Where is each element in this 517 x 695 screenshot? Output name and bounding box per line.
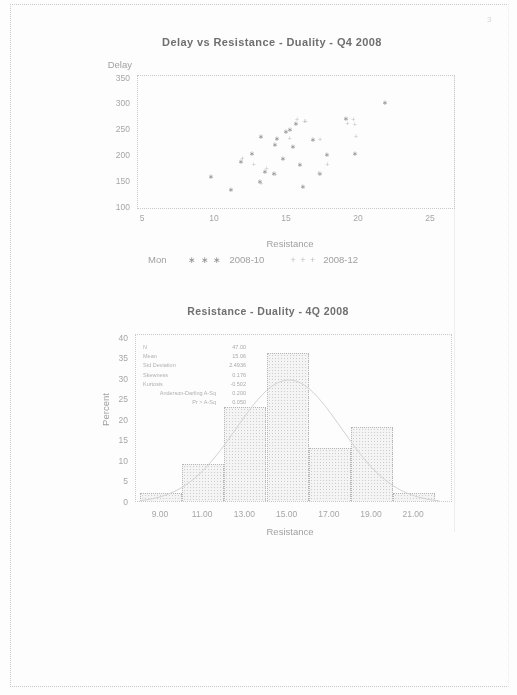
histogram-x-tick-label: 15.00: [270, 510, 304, 519]
document-page: 3 Delay vs Resistance - Duality - Q4 200…: [0, 0, 517, 695]
scatter-legend-title: Mon: [148, 254, 166, 265]
scatter-x-tick-label: 10: [197, 214, 231, 223]
scatter-x-tick-label: 5: [125, 214, 159, 223]
scatter-point: ∗: [272, 141, 278, 148]
scatter-x-tick-label: 20: [341, 214, 375, 223]
scatter-point: +: [304, 118, 308, 125]
scatter-x-tick-label: 25: [413, 214, 447, 223]
scatter-y-tick-label: 150: [100, 177, 130, 186]
stats-row: N47.00: [143, 342, 246, 351]
histogram-y-tick-label: 35: [98, 354, 128, 363]
histogram-title: Resistance - Duality - 4Q 2008: [58, 305, 478, 317]
stats-value: 47.00: [220, 344, 246, 350]
scatter-y-tick-label: 250: [100, 125, 130, 134]
scatter-point: +: [325, 161, 329, 168]
scatter-point: +: [273, 170, 277, 177]
scatter-point: ∗: [310, 135, 316, 142]
histogram-x-axis-title: Resistance: [240, 526, 340, 537]
histogram-x-tick-label: 13.00: [227, 510, 261, 519]
histogram-bar: [393, 493, 435, 501]
scatter-point: ∗: [300, 182, 306, 189]
scatter-point: ∗: [382, 98, 388, 105]
histogram-bar: [140, 493, 182, 501]
histogram-bar: [267, 353, 309, 501]
histogram-y-tick-label: 20: [98, 416, 128, 425]
histogram-x-tick-label: 17.00: [312, 510, 346, 519]
histogram-y-tick-label: 40: [98, 334, 128, 343]
scatter-point: +: [252, 161, 256, 168]
scatter-y-tick-label: 350: [100, 74, 130, 83]
legend-marker-icon: + + +: [290, 255, 316, 265]
scatter-point: ∗: [287, 126, 293, 133]
scatter-point: ∗: [352, 149, 358, 156]
scatter-point: ∗: [324, 150, 330, 157]
stats-row: Mean15.06: [143, 351, 246, 360]
scatter-y-axis-title: Delay: [92, 59, 132, 70]
scatter-plot-area: ∗∗∗∗∗∗∗∗∗∗∗∗∗∗∗∗∗∗∗∗∗∗∗++++++++++++++++: [137, 75, 455, 209]
stats-label: N: [143, 344, 220, 350]
scatter-chart-title: Delay vs Resistance - Duality - Q4 2008: [60, 36, 484, 48]
scatter-point: +: [259, 180, 263, 187]
histogram-x-tick-label: 21.00: [396, 510, 430, 519]
scatter-point: +: [295, 116, 299, 123]
page-number: 3: [487, 15, 491, 24]
legend-marker-icon: ∗ ∗ ∗: [188, 255, 222, 265]
histogram-y-tick-label: 30: [98, 375, 128, 384]
stats-row: Pr > A-Sq0.050: [143, 398, 246, 407]
stats-value: 0.050: [220, 399, 246, 405]
histogram-y-tick-label: 0: [98, 498, 128, 507]
scatter-point: ∗: [280, 154, 286, 161]
stats-row: Kurtosis-0.502: [143, 379, 246, 388]
histogram-stats-inset: N47.00Mean15.06Std Deviation2.4936Skewne…: [143, 342, 246, 407]
scatter-y-tick-label: 200: [100, 151, 130, 160]
scatter-point: +: [265, 164, 269, 171]
histogram-bar: [224, 407, 266, 501]
scatter-x-axis-title: Resistance: [240, 238, 340, 249]
scatter-y-tick-label: 300: [100, 99, 130, 108]
scatter-point: +: [240, 154, 244, 161]
scatter-x-tick-label: 15: [269, 214, 303, 223]
legend-item-label: 2008-10: [230, 254, 265, 265]
stats-value: 0.200: [220, 390, 246, 396]
histogram-x-tick-label: 19.00: [354, 510, 388, 519]
histogram-y-tick-label: 5: [98, 477, 128, 486]
stats-value: 0.176: [220, 372, 246, 378]
scatter-point: ∗: [274, 134, 280, 141]
scatter-legend-item: + + +2008-12: [290, 254, 358, 265]
scatter-legend: Mon ∗ ∗ ∗2008-10+ + +2008-12: [148, 254, 384, 265]
scatter-point: ∗: [228, 185, 234, 192]
scatter-point: +: [354, 132, 358, 139]
histogram-bar: [309, 448, 351, 501]
scatter-point: +: [288, 134, 292, 141]
stats-value: 2.4936: [220, 362, 246, 368]
stats-label: Mean: [143, 353, 220, 359]
scatter-y-tick-label: 100: [100, 203, 130, 212]
histogram-plot-area: N47.00Mean15.06Std Deviation2.4936Skewne…: [135, 334, 452, 502]
stats-row: Skewness0.176: [143, 370, 246, 379]
histogram-y-tick-label: 10: [98, 457, 128, 466]
scatter-point: ∗: [249, 149, 255, 156]
histogram-bar: [182, 464, 224, 501]
scatter-point: ∗: [290, 143, 296, 150]
histogram-bar: [351, 427, 393, 501]
stats-label: Skewness: [143, 372, 220, 378]
stats-label: Pr > A-Sq: [143, 399, 220, 405]
legend-item-label: 2008-12: [323, 254, 358, 265]
histogram-x-tick-label: 9.00: [143, 510, 177, 519]
stats-label: Kurtosis: [143, 381, 220, 387]
scatter-point: ∗: [208, 173, 214, 180]
stats-value: -0.502: [220, 381, 246, 387]
scatter-point: ∗: [297, 161, 303, 168]
stats-row: Anderson-Darling A-Sq0.200: [143, 388, 246, 397]
scatter-point: +: [353, 120, 357, 127]
histogram-y-tick-label: 25: [98, 395, 128, 404]
histogram-x-tick-label: 11.00: [185, 510, 219, 519]
scatter-point: ∗: [258, 132, 264, 139]
stats-label: Std Deviation: [143, 362, 220, 368]
scatter-point: +: [318, 135, 322, 142]
scatter-point: +: [345, 119, 349, 126]
stats-row: Std Deviation2.4936: [143, 361, 246, 370]
stats-label: Anderson-Darling A-Sq: [143, 390, 220, 396]
histogram-y-tick-label: 15: [98, 436, 128, 445]
stats-value: 15.06: [220, 353, 246, 359]
